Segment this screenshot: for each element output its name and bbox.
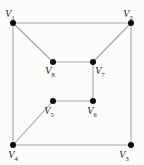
vertex-dot-V2 bbox=[128, 20, 134, 26]
vertex-label-subscript-V3: 3 bbox=[125, 155, 128, 162]
vertex-label-V8: V8 bbox=[45, 65, 54, 78]
vertex-label-subscript-V2: 2 bbox=[129, 14, 132, 21]
vertex-label-V3: V3 bbox=[119, 149, 128, 162]
graph-diagram-page: V1V2V3V4V5V6V7V8 bbox=[0, 0, 144, 165]
edge-V2-V7 bbox=[93, 23, 131, 62]
graph-canvas: V1V2V3V4V5V6V7V8 bbox=[0, 0, 144, 165]
vertex-label-V4: V4 bbox=[8, 149, 18, 162]
vertex-label-V2: V2 bbox=[123, 8, 132, 21]
edge-V1-V8 bbox=[13, 23, 53, 62]
vertex-dot-V3 bbox=[128, 142, 134, 148]
vertex-label-subscript-V4: 4 bbox=[14, 155, 18, 162]
vertex-label-subscript-V8: 8 bbox=[51, 71, 54, 78]
vertex-dot-V1 bbox=[10, 20, 16, 26]
vertex-label-subscript-V1: 1 bbox=[11, 14, 14, 21]
vertex-label-subscript-V7: 7 bbox=[101, 71, 105, 78]
vertex-label-V7: V7 bbox=[95, 65, 105, 78]
vertex-label-subscript-V5: 5 bbox=[50, 111, 53, 118]
vertex-dot-V6 bbox=[90, 98, 96, 104]
vertex-label-subscript-V6: 6 bbox=[93, 111, 97, 118]
vertex-dot-V5 bbox=[50, 98, 56, 104]
vertex-dot-V4 bbox=[10, 142, 16, 148]
vertex-label-V5: V5 bbox=[44, 105, 53, 118]
vertex-label-V6: V6 bbox=[87, 105, 97, 118]
vertex-label-V1: V1 bbox=[5, 8, 14, 21]
